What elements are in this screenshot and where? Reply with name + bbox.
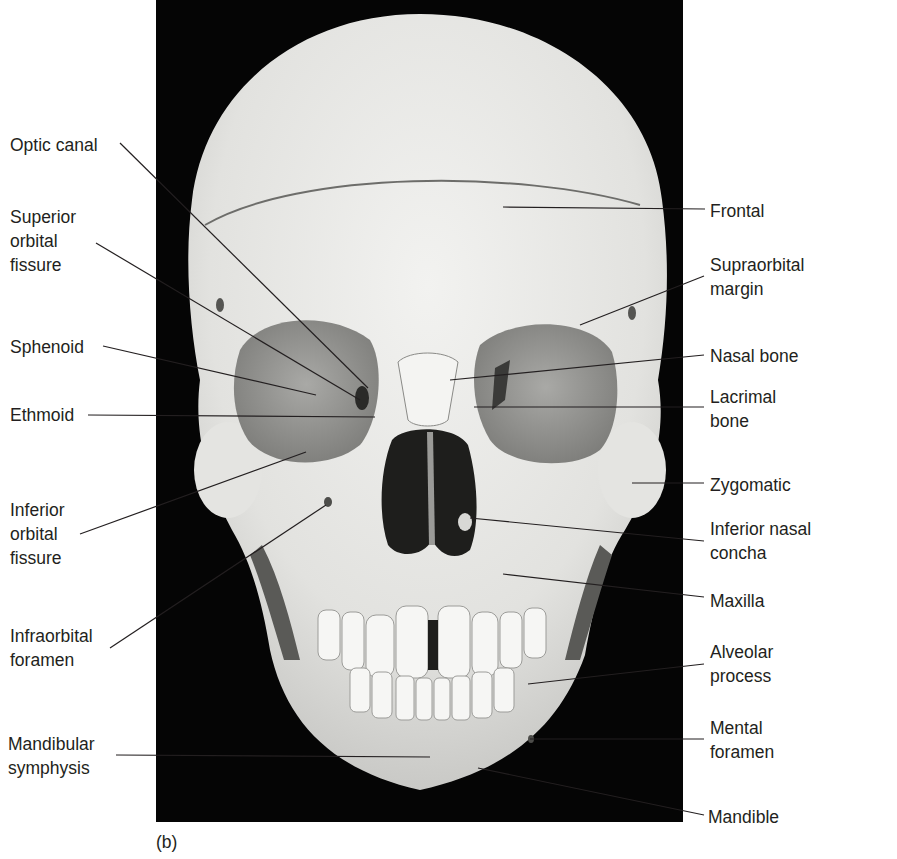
panel-letter: (b) [156,830,177,854]
label-mandible: Mandible [708,805,779,829]
label-nasal-bone: Nasal bone [710,344,799,368]
label-sphenoid: Sphenoid [10,335,84,359]
inferior-nasal-concha-shape [458,513,472,531]
label-alveolar-process: Alveolar process [710,640,773,688]
nasal-bone-shape [398,353,458,426]
left-temple-foramen [216,298,224,312]
label-zygomatic: Zygomatic [710,473,791,497]
skull-anterior-view-figure: Optic canal Superior orbital fissure Sph… [0,0,897,859]
label-lacrimal-bone: Lacrimal bone [710,385,776,433]
label-inferior-orbital-fissure: Inferior orbital fissure [10,498,64,570]
label-superior-orbital-fissure: Superior orbital fissure [10,205,76,277]
label-inferior-nasal-concha: Inferior nasal concha [710,517,811,565]
leader-line-mandible [478,768,704,815]
label-optic-canal: Optic canal [10,133,98,157]
nasal-septum [430,432,432,545]
label-maxilla: Maxilla [710,589,764,613]
label-supraorbital-margin: Supraorbital margin [710,253,804,301]
label-mandibular-symphysis: Mandibular symphysis [8,732,95,780]
label-ethmoid: Ethmoid [10,403,74,427]
label-mental-foramen: Mental foramen [710,716,774,764]
label-frontal: Frontal [710,199,764,223]
incisor-gap [428,620,438,670]
label-infraorbital-foramen: Infraorbital foramen [10,624,93,672]
right-temple-foramen [628,306,636,320]
